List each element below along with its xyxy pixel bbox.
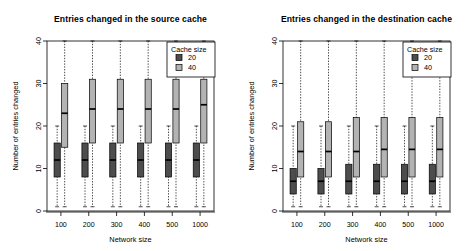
y-tick-label-10: 10 [35, 165, 43, 173]
legend-swatch-20 [412, 55, 418, 61]
boxplot-1-200-cache20 [317, 126, 323, 207]
boxplot-0-400-cache20 [138, 126, 144, 207]
box-iqr [408, 118, 414, 178]
box-iqr [353, 118, 359, 178]
boxplot-1-300-cache40 [353, 41, 359, 207]
boxplot-1-1000-cache20 [429, 126, 435, 207]
y-tick-label-30: 30 [35, 80, 43, 88]
x-tick-label-100: 100 [290, 221, 302, 229]
box-iqr [89, 79, 95, 143]
box-iqr [117, 79, 123, 143]
legend: Cache size2040 [403, 42, 451, 77]
x-tick-label-100: 100 [55, 221, 67, 229]
y-tick-label-20: 20 [35, 122, 43, 130]
boxplot-0-300-cache20 [110, 126, 116, 207]
boxplot-1-100-cache40 [297, 41, 303, 207]
boxplot-0-300-cache40 [117, 41, 123, 207]
y-tick-label-30: 30 [271, 80, 279, 88]
legend-swatch-40 [412, 65, 418, 71]
x-tick-label-1000: 1000 [192, 221, 208, 229]
legend-swatch-40 [176, 65, 182, 71]
chart-title: Entries changed in the destination cache [280, 14, 451, 24]
box-iqr [429, 164, 435, 194]
boxplot-1-300-cache20 [345, 126, 351, 207]
boxplot-1-500-cache20 [401, 126, 407, 207]
chart-title: Entries changed in the source cache [54, 14, 207, 24]
x-tick-label-400: 400 [138, 221, 150, 229]
box-iqr [345, 164, 351, 194]
box-iqr [401, 164, 407, 194]
boxplot-0-100-cache40 [62, 41, 68, 207]
box-iqr [145, 79, 151, 143]
x-tick-label-500: 500 [402, 221, 414, 229]
panel-source-cache: Entries changed in the source cache01020… [0, 0, 236, 251]
y-tick-label-10: 10 [271, 165, 279, 173]
x-axis-label: Network size [345, 235, 387, 244]
boxplot-1-400-cache20 [373, 126, 379, 207]
legend-label-20: 20 [188, 53, 196, 62]
x-tick-label-500: 500 [166, 221, 178, 229]
boxplot-0-500-cache20 [165, 126, 171, 207]
boxplot-0-100-cache20 [54, 126, 60, 207]
box-iqr [173, 79, 179, 143]
boxplot-0-200-cache20 [82, 126, 88, 207]
boxplot-0-200-cache40 [89, 41, 95, 207]
y-tick-label-40: 40 [271, 37, 279, 45]
legend-label-20: 20 [424, 53, 432, 62]
legend: Cache size2040 [167, 42, 215, 77]
boxplot-0-400-cache40 [145, 41, 151, 207]
boxplot-0-1000-cache20 [193, 126, 199, 207]
y-axis-label: Number of entries changed [11, 81, 20, 170]
box-iqr [373, 164, 379, 194]
box-iqr [436, 118, 442, 178]
x-axis-label: Network size [109, 235, 151, 244]
y-tick-label-0: 0 [35, 209, 43, 213]
y-tick-label-0: 0 [271, 209, 279, 213]
legend-label-40: 40 [424, 63, 432, 72]
box-iqr [62, 84, 68, 148]
x-tick-label-1000: 1000 [428, 221, 444, 229]
x-tick-label-300: 300 [111, 221, 123, 229]
legend-label-40: 40 [188, 63, 196, 72]
boxplot-figure: Entries changed in the source cache01020… [0, 0, 471, 251]
x-tick-label-200: 200 [318, 221, 330, 229]
y-tick-label-40: 40 [35, 37, 43, 45]
panel-destination-cache: Entries changed in the destination cache… [236, 0, 471, 251]
x-tick-label-200: 200 [83, 221, 95, 229]
box-iqr [201, 79, 207, 143]
box-iqr [325, 122, 331, 177]
y-tick-label-20: 20 [271, 122, 279, 130]
x-tick-label-300: 300 [346, 221, 358, 229]
legend-swatch-20 [176, 55, 182, 61]
boxplot-1-100-cache20 [290, 126, 296, 207]
x-tick-label-400: 400 [374, 221, 386, 229]
boxplot-1-400-cache40 [381, 41, 387, 207]
boxplot-1-200-cache40 [325, 41, 331, 207]
y-axis-label: Number of entries changed [247, 81, 256, 170]
box-iqr [381, 118, 387, 178]
box-iqr [297, 122, 303, 177]
